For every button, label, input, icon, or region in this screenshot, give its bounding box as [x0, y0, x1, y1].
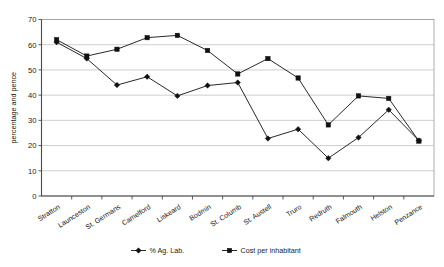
- data-point-marker: [205, 48, 209, 52]
- data-point-marker: [115, 47, 119, 51]
- chart-container: 010203040506070 StrattonLauncestonSt. Ge…: [0, 0, 444, 267]
- y-tick-label: 20: [28, 141, 36, 150]
- y-tick-label: 40: [28, 91, 36, 100]
- legend-marker: [227, 248, 231, 252]
- legend-label: % Ag. Lab.: [150, 246, 185, 255]
- data-point-marker: [266, 56, 270, 60]
- legend-label: Cost per inhabitant: [241, 246, 301, 255]
- data-point-marker: [296, 76, 300, 80]
- y-tick-label: 70: [28, 15, 36, 24]
- y-axis-title-text: percentage and pence: [9, 72, 18, 144]
- y-tick-label: 10: [28, 167, 36, 176]
- y-tick-label: 0: [32, 192, 36, 201]
- y-axis-title: percentage and pence: [9, 72, 18, 144]
- data-point-marker: [236, 72, 240, 76]
- data-point-marker: [175, 33, 179, 37]
- data-point-marker: [387, 96, 391, 100]
- data-point-marker: [417, 139, 421, 143]
- y-tick-label: 60: [28, 41, 36, 50]
- chart-background: [0, 0, 444, 267]
- line-chart: 010203040506070 StrattonLauncestonSt. Ge…: [0, 0, 444, 267]
- y-tick-label: 30: [28, 116, 36, 125]
- data-point-marker: [54, 37, 58, 41]
- data-point-marker: [85, 54, 89, 58]
- y-tick-label: 50: [28, 66, 36, 75]
- data-point-marker: [145, 35, 149, 39]
- data-point-marker: [356, 94, 360, 98]
- data-point-marker: [326, 123, 330, 127]
